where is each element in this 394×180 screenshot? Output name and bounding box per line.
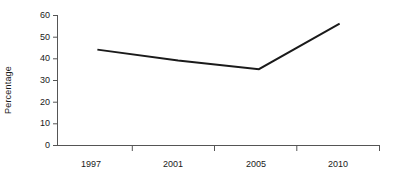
line-chart: Percentage 60 50 40 30 20 10 0 1997 2001…: [0, 0, 394, 180]
y-axis-ticks: [53, 16, 57, 146]
plot-area: [0, 0, 394, 180]
data-series-line: [97, 24, 339, 70]
